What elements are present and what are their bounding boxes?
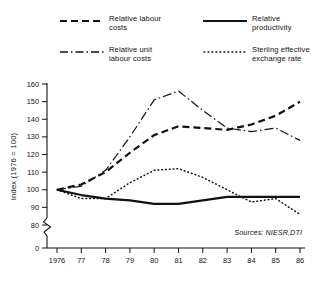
legend-label: Relative productivity — [247, 14, 292, 32]
series-line-dash-dot — [57, 91, 300, 190]
y-tick-label: 140 — [27, 115, 39, 124]
plot-svg: 16015014013012011010090800 1976777879808… — [0, 70, 320, 283]
legend-key-dotted-icon — [203, 46, 247, 58]
y-axis-break — [44, 218, 51, 248]
legend-item-relative-unit-labour-costs: Relative unit labour costs — [60, 45, 152, 63]
x-tick-label: 84 — [247, 256, 255, 265]
x-tick-label: 82 — [199, 256, 207, 265]
x-tick-label: 85 — [272, 256, 280, 265]
legend-key-dashed-icon — [60, 15, 104, 27]
y-axis-ticks: 16015014013012011010090800 — [27, 80, 47, 253]
y-tick-label: 150 — [27, 97, 39, 106]
legend-label: Sterling effective exchange rate — [247, 45, 310, 63]
y-tick-label: 90 — [31, 203, 39, 212]
series-line-dashed — [57, 102, 300, 190]
x-tick-label: 1976 — [49, 256, 65, 265]
source-note: Sources: NIESR,DTI — [234, 228, 302, 237]
x-tick-label: 81 — [174, 256, 182, 265]
legend-item-relative-labour-costs: Relative labour costs — [60, 14, 161, 32]
x-tick-label: 78 — [101, 256, 109, 265]
data-series-group — [57, 91, 300, 214]
x-tick-label: 79 — [126, 256, 134, 265]
legend-key-dash-dot-icon — [60, 46, 104, 58]
x-tick-label: 80 — [150, 256, 158, 265]
chart-area: Index (1976 = 100) Sources: NIESR,DTI 16… — [0, 70, 320, 283]
y-tick-label: 100 — [27, 185, 39, 194]
y-axis-title: Index (1976 = 100) — [9, 119, 18, 214]
legend-item-relative-productivity: Relative productivity — [203, 14, 292, 32]
y-tick-label: 160 — [27, 80, 39, 89]
chart-page: Relative labour costs Relative productiv… — [0, 0, 320, 283]
chart-legend: Relative labour costs Relative productiv… — [0, 0, 320, 70]
series-line-solid — [57, 190, 300, 204]
legend-item-sterling-effective-exchange-rate: Sterling effective exchange rate — [203, 45, 310, 63]
legend-label: Relative unit labour costs — [104, 45, 152, 63]
legend-label: Relative labour costs — [104, 14, 161, 32]
y-tick-label: 110 — [27, 168, 39, 177]
y-tick-label: 130 — [27, 132, 39, 141]
x-tick-label: 86 — [296, 256, 304, 265]
x-tick-label: 83 — [223, 256, 231, 265]
x-axis-ticks: 197677787980818283848586 — [49, 248, 304, 265]
y-tick-label: 0 — [35, 244, 39, 253]
legend-key-solid-icon — [203, 15, 247, 27]
y-tick-label: 80 — [31, 221, 39, 230]
y-tick-label: 120 — [27, 150, 39, 159]
series-line-dotted — [57, 169, 300, 215]
x-tick-label: 77 — [77, 256, 85, 265]
